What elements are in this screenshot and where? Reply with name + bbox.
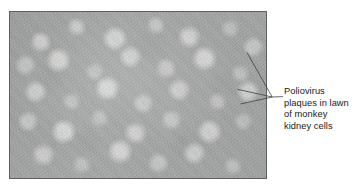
callout-label-line-4: kidney cells	[284, 121, 361, 133]
callout-label: Poliovirus plaques in lawn of monkey kid…	[284, 86, 361, 132]
figure-root: Poliovirus plaques in lawn of monkey kid…	[0, 0, 361, 192]
callout-label-line-3: of monkey	[284, 109, 361, 121]
poliovirus-plaque-photograph	[9, 11, 267, 179]
callout-label-line-1: Poliovirus	[284, 86, 361, 98]
callout-label-line-2: plaques in lawn	[284, 98, 361, 110]
photo-vignette-overlay	[10, 12, 266, 178]
